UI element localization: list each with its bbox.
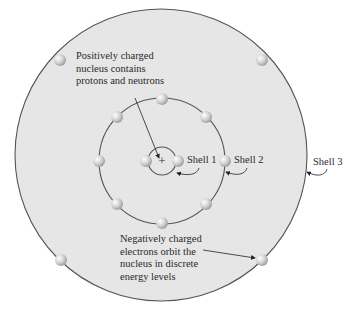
shell-3-pointer [307, 169, 327, 175]
nucleus-symbol: + [158, 153, 165, 168]
shell-3-label: Shell 3 [313, 156, 342, 169]
shell-2-label: Shell 2 [234, 154, 263, 167]
electron-note: Negatively charged electrons orbit the n… [120, 233, 202, 283]
shell-1-label: Shell 1 [187, 154, 216, 167]
nucleus-note: Positively charged nucleus contains prot… [76, 50, 164, 88]
